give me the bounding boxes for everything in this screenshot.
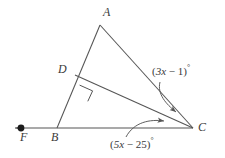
angle-acd-degree-symbol: ° <box>187 63 190 72</box>
right-angle-marker <box>80 85 93 101</box>
vertex-label-C: C <box>198 121 206 133</box>
angle-acd-constant: 1 <box>178 65 184 77</box>
angle-dcb-degree-symbol: ° <box>150 136 153 145</box>
diagram-canvas <box>0 0 225 158</box>
leader-angle-acd <box>159 82 176 112</box>
vertex-label-A: A <box>103 6 110 18</box>
vertex-label-F: F <box>20 131 27 143</box>
leader-angle-dcb <box>126 120 164 137</box>
vertex-label-D: D <box>58 63 67 75</box>
angle-dcb-term: 5x <box>114 138 124 150</box>
angle-label-acd: (3x − 1)° <box>152 64 190 77</box>
angle-dcb-constant: 25 <box>136 138 147 150</box>
angle-dcb-operator: − <box>127 138 133 150</box>
segment-DC <box>75 75 193 128</box>
angle-label-dcb: (5x − 25)° <box>110 137 154 150</box>
vertex-label-B: B <box>51 131 58 143</box>
geometry-diagram: A D F B C (3x − 1)° (5x − 25)° <box>0 0 225 158</box>
angle-acd-operator: − <box>169 65 175 77</box>
angle-acd-term: 3x <box>156 65 166 77</box>
